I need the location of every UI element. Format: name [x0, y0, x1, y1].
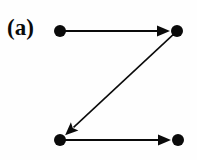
directed-graph-diagram — [0, 0, 197, 160]
edge-top-right-to-bottom-left — [65, 34, 174, 135]
edge-top-left-to-top-right — [65, 26, 171, 37]
edge-bottom-left-to-bottom-right — [65, 135, 172, 146]
graph-node-top-left — [54, 25, 66, 37]
graph-node-top-right — [171, 25, 183, 37]
arrowhead-right-icon — [158, 135, 171, 146]
figure-panel: (a) — [0, 0, 197, 160]
graph-node-bottom-right — [172, 134, 184, 146]
graph-node-bottom-left — [54, 134, 66, 146]
edge-line — [74, 34, 174, 127]
arrowhead-right-icon — [157, 26, 170, 37]
